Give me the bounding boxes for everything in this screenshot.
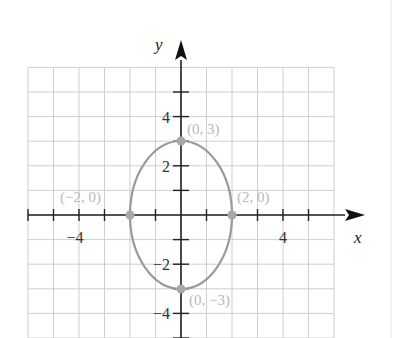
y-axis-label: y (153, 35, 163, 54)
point-marker (177, 285, 186, 294)
y-tick-label: −2 (153, 256, 170, 273)
point-label: (−2, 0) (60, 189, 101, 206)
grid (28, 0, 391, 338)
y-axis-arrow-icon (175, 40, 187, 60)
point-label: (0, 3) (187, 121, 220, 138)
y-tick-label: −4 (153, 305, 170, 322)
y-tick-label: 4 (162, 109, 170, 126)
point-marker (228, 211, 237, 220)
point-marker (126, 211, 135, 220)
x-axis-label: x (353, 228, 362, 247)
ellipse-graph: x y −4 4 4 2 −2 −4 (0, 3) (2, 0) (−2, 0)… (0, 0, 394, 338)
point-marker (177, 137, 186, 146)
x-tick-label: 4 (279, 229, 287, 246)
x-tick-label: −4 (66, 229, 83, 246)
point-label: (0, −3) (189, 292, 230, 309)
x-axis-arrow-icon (345, 209, 365, 221)
y-tick-label: 2 (162, 158, 170, 175)
point-label: (2, 0) (237, 189, 270, 206)
